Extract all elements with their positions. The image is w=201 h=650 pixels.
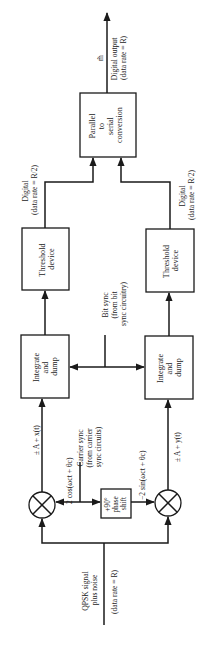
bit-sync-label: Bit sync (from bit sync circuitry)	[101, 281, 128, 326]
svg-text:+90° phase shift: +90° phase shift	[104, 494, 128, 512]
carrier-sin-label: −2 sin(ωct + θc)	[138, 450, 147, 500]
input-split-top	[42, 519, 104, 543]
parallel-to-serial-block: Parallel to serial conversion	[80, 93, 136, 157]
digital-top-label: Digital (data rate = R/2)	[21, 165, 39, 216]
wire-threshold-bottom-to-ps	[121, 158, 170, 229]
carrier-cos-label: 2 cos(ωct + θc)	[65, 457, 74, 504]
phase-shift-block: +90° phase shift	[101, 489, 131, 518]
threshold-device-top: Threshold device	[22, 228, 69, 290]
multiplier-bottom-icon	[155, 490, 181, 516]
threshold-device-bottom: Threshold device	[146, 229, 194, 292]
input-rate-label: (data rate = R)	[110, 569, 119, 614]
signal-y-label: ± A + y(t)	[173, 432, 182, 462]
multiplier-top-icon	[29, 492, 55, 518]
carrier-sync-label: Carrier sync (from carrier sync circuits…	[76, 426, 103, 467]
integrate-and-dump-bottom: Integrate and dump	[145, 336, 193, 399]
qpsk-receiver-diagram: Parallel to serial conversion Threshold …	[0, 0, 201, 650]
digital-output-label: Digital output (data rate = R)	[110, 35, 128, 80]
signal-x-label: ± A + x(t)	[32, 425, 41, 455]
input-label: QPSK signal plus noise	[81, 569, 99, 610]
output-symbol-label: m̃	[96, 55, 105, 61]
integrate-and-dump-top: Integrate and dump	[21, 335, 69, 398]
digital-bottom-label: Digital (data rate = R/2)	[178, 170, 196, 221]
wire-threshold-top-to-ps	[45, 158, 93, 228]
input-split-bottom	[104, 517, 168, 543]
